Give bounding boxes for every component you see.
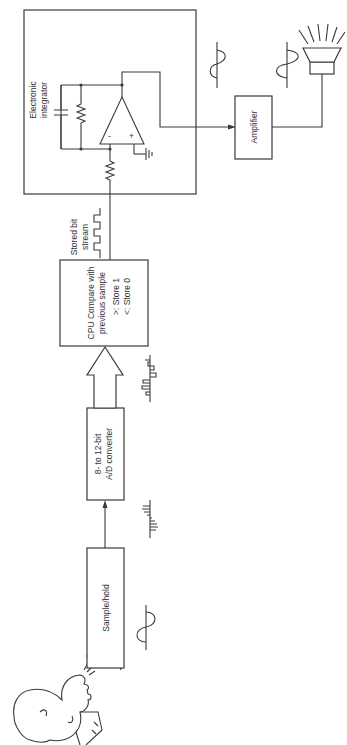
cpu-label-4: <: Store 0	[122, 278, 132, 315]
speaker-icon	[299, 24, 345, 74]
bit-stream-label-2: stream	[80, 224, 90, 250]
arrow-sh-to-ad	[103, 500, 108, 548]
amplifier-label: Amplifier	[249, 110, 259, 143]
opamp-minus: -	[108, 131, 111, 141]
sample-hold-label: Sample/hold	[101, 584, 111, 632]
integrator-block: Electronic integrator - +	[24, 10, 196, 194]
arrow-int-to-amp	[196, 125, 236, 130]
sine-wave-icon	[137, 605, 155, 650]
ad-converter-label-1: 8- to 12-bit	[93, 433, 103, 474]
amp-to-speaker-line	[272, 74, 322, 127]
sine-wave-icon-3	[277, 42, 299, 88]
amplifier-block: Amplifier	[235, 96, 272, 159]
bus-arrow	[87, 347, 123, 408]
sampled-pulses-icon	[142, 500, 158, 538]
speech-digitization-diagram: Sample/hold 8- to 12-bit A/D converter C…	[0, 0, 347, 745]
bit-stream-label-1: Stored bit	[69, 218, 79, 255]
square-wave-icon	[94, 208, 100, 258]
cpu-block: CPU Compare with previous sample >: Stor…	[60, 260, 148, 346]
ad-converter-block: 8- to 12-bit A/D converter	[87, 408, 124, 500]
opamp-plus: +	[129, 131, 134, 141]
digital-pulses-icon	[142, 355, 156, 402]
cpu-label-2: previous sample	[97, 272, 107, 334]
cpu-label-3: >: Store 1	[111, 278, 121, 315]
integrator-label-1: Electronic	[28, 81, 38, 119]
integrator-label-2: integrator	[39, 82, 49, 118]
ad-converter-label-2: A/D converter	[104, 428, 114, 480]
sine-wave-icon-2	[210, 42, 225, 88]
sample-hold-block: Sample/hold	[87, 548, 124, 668]
cpu-label-1: CPU Compare with	[86, 266, 96, 339]
speaking-person-icon	[14, 663, 102, 745]
